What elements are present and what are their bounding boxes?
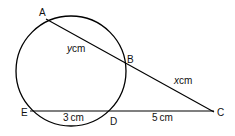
- point-label-c: C: [217, 108, 224, 118]
- point-label-e: E: [21, 108, 28, 118]
- length-label-dc: 5 cm: [152, 113, 173, 123]
- unit: cm: [179, 75, 192, 86]
- point-label-b: B: [127, 55, 134, 65]
- unit: cm: [71, 112, 84, 123]
- length-label-ed: 3 cm: [63, 113, 84, 123]
- length-label-ab: ycm: [67, 44, 85, 54]
- geometry-diagram: [0, 0, 235, 136]
- value: 3: [63, 112, 69, 123]
- secant-acb: [46, 19, 214, 112]
- point-label-a: A: [39, 8, 46, 18]
- point-label-d: D: [110, 117, 117, 127]
- length-label-bc: xcm: [174, 76, 192, 86]
- unit: cm: [72, 43, 85, 54]
- value: 5: [152, 112, 158, 123]
- unit: cm: [160, 112, 173, 123]
